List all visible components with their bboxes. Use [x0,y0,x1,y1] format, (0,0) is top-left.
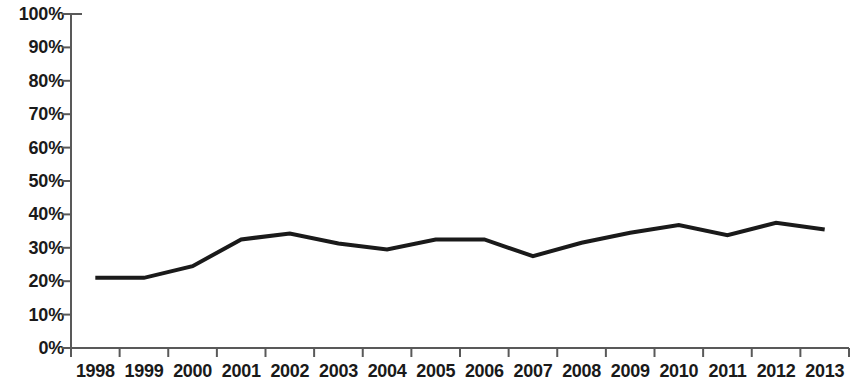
x-axis-tick-label: 2008 [562,362,601,380]
x-axis-tick-label: 2006 [465,362,504,380]
x-axis-tick-label: 2000 [173,362,212,380]
x-axis-tick-label: 2004 [368,362,407,380]
x-axis-tick-label: 2001 [222,362,261,380]
x-axis-tick-label: 1998 [76,362,115,380]
x-axis-tick-label: 2010 [659,362,698,380]
y-axis-ticks [62,14,71,348]
x-axis-tick-label: 2009 [611,362,650,380]
line-chart-plot [0,0,854,387]
x-axis-tick-label-group: 1998199920002001200220032004200520062007… [0,362,854,387]
axis-lines [71,14,849,348]
x-axis-tick-label: 2013 [805,362,844,380]
chart-container: 0%10%20%30%40%50%60%70%80%90%100% 199819… [0,0,854,387]
x-axis-tick-label: 2005 [416,362,455,380]
x-axis-tick-label: 2002 [270,362,309,380]
x-axis-tick-label: 2012 [757,362,796,380]
x-axis-tick-label: 2011 [709,362,747,380]
x-axis-tick-label: 2003 [319,362,358,380]
data-series-line [95,223,824,278]
x-axis-tick-label: 1999 [125,362,164,380]
x-axis-tick-label: 2007 [514,362,553,380]
x-axis-ticks [71,348,849,357]
